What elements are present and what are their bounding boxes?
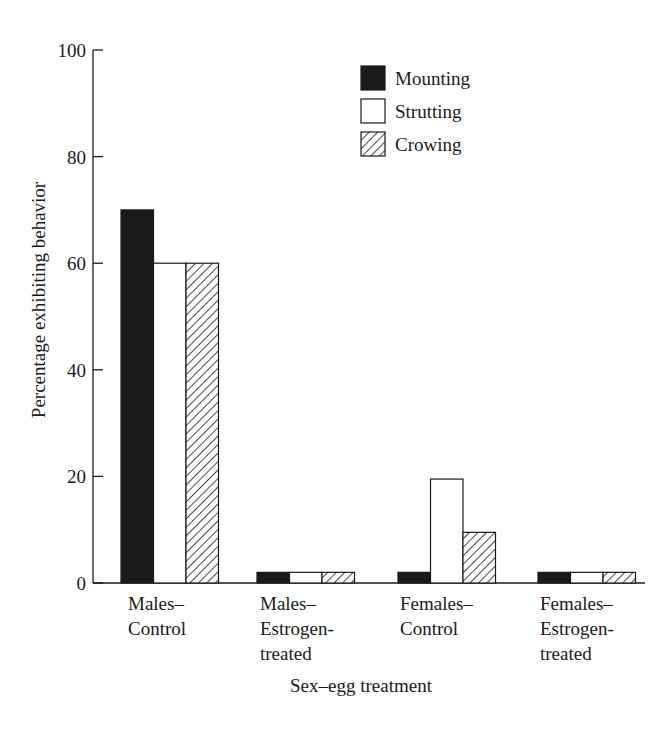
bar-mounting (538, 572, 571, 583)
bar-chart: 020406080100 MountingStruttingCrowing Ma… (0, 0, 672, 729)
legend: MountingStruttingCrowing (361, 66, 470, 156)
bar-mounting (121, 210, 154, 583)
bar-strutting (154, 263, 187, 583)
legend-swatch-strutting (361, 99, 385, 123)
legend-label-crowing: Crowing (395, 134, 462, 155)
bar-group (398, 479, 496, 583)
legend-swatch-mounting (361, 66, 385, 90)
bar-mounting (257, 572, 290, 583)
y-tick-label: 40 (67, 360, 86, 381)
y-tick-label: 20 (67, 466, 86, 487)
bar-mounting (398, 572, 431, 583)
x-category-label: Females–Control (400, 593, 473, 639)
bar-crowing (463, 532, 496, 583)
bar-strutting (290, 572, 323, 583)
y-axis-title: Percentage exhibiting behavior (28, 181, 49, 418)
x-category-label: Males–Estrogen-treated (260, 593, 334, 664)
x-category-label: Males–Control (128, 593, 186, 639)
x-category-label: Females–Estrogen-treated (540, 593, 614, 664)
y-tick-label: 80 (67, 147, 86, 168)
legend-label-mounting: Mounting (395, 68, 470, 89)
bar-crowing (322, 572, 355, 583)
bar-crowing (603, 572, 636, 583)
bar-group (121, 210, 219, 583)
legend-label-strutting: Strutting (395, 101, 462, 122)
y-tick-label: 100 (58, 40, 87, 61)
labels: Males–ControlMales–Estrogen-treatedFemal… (28, 181, 614, 696)
y-tick-label: 0 (77, 573, 87, 594)
bar-strutting (571, 572, 604, 583)
bar-group (538, 572, 636, 583)
bar-strutting (431, 479, 464, 583)
bars (121, 210, 636, 583)
bar-crowing (186, 263, 219, 583)
legend-swatch-crowing (361, 132, 385, 156)
y-tick-label: 60 (67, 253, 86, 274)
x-axis-title: Sex–egg treatment (290, 675, 433, 696)
bar-group (257, 572, 355, 583)
